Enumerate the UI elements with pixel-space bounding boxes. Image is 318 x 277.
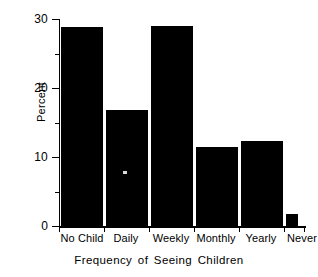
x-label-yearly: Yearly bbox=[239, 232, 283, 245]
x-axis-line bbox=[59, 226, 306, 228]
bar-monthly bbox=[196, 147, 238, 226]
bar-weekly bbox=[151, 26, 193, 226]
x-label-weekly: Weekly bbox=[148, 232, 194, 245]
scan-artifact bbox=[123, 171, 127, 174]
bar-chart: Percent 30 20 10 0 No Child Daily Weekly… bbox=[0, 0, 318, 277]
x-axis-title: Frequency of Seeing Children bbox=[0, 253, 318, 267]
x-label-monthly: Monthly bbox=[192, 232, 240, 245]
bar-no-child bbox=[61, 27, 103, 226]
plot-right-mask bbox=[298, 0, 318, 226]
bar-yearly bbox=[241, 141, 283, 226]
x-label-daily: Daily bbox=[104, 232, 148, 245]
bar-daily bbox=[106, 110, 148, 226]
x-label-never: Never bbox=[282, 232, 318, 245]
x-label-no-child: No Child bbox=[58, 232, 106, 245]
